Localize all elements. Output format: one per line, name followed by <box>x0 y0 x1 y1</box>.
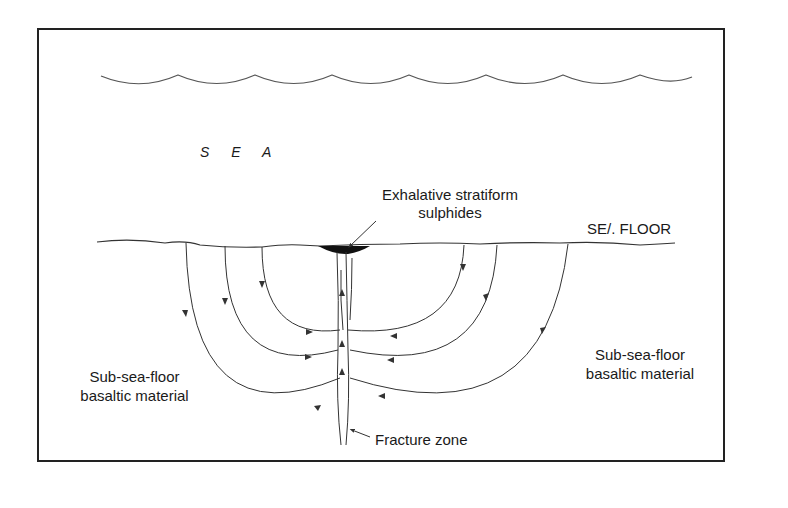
left-circulation-paths <box>186 243 340 393</box>
right-circulation-paths <box>348 244 568 393</box>
left-basalt-line1: Sub-sea-floor <box>62 367 207 386</box>
deposit-label: Exhalative stratiform sulphides <box>350 186 550 222</box>
fracture-zone-label: Fracture zone <box>375 430 468 449</box>
left-basalt-label: Sub-sea-floor basaltic material <box>62 367 207 405</box>
sulphide-deposit <box>318 246 370 254</box>
left-basalt-line2: basaltic material <box>62 386 207 405</box>
deposit-label-line2: sulphides <box>350 204 550 222</box>
right-basalt-line1: Sub-sea-floor <box>570 345 710 364</box>
sea-label: S E A <box>200 143 280 162</box>
sea-floor-line <box>97 240 675 247</box>
deposit-label-line1: Exhalative stratiform <box>350 186 550 204</box>
sea-floor-label: SE/. FLOOR <box>587 219 671 238</box>
right-basalt-line2: basaltic material <box>570 364 710 383</box>
fracture-zone <box>337 252 352 445</box>
flow-arrows <box>182 264 546 411</box>
sea-surface-waves <box>101 75 692 84</box>
right-basalt-label: Sub-sea-floor basaltic material <box>570 345 710 383</box>
